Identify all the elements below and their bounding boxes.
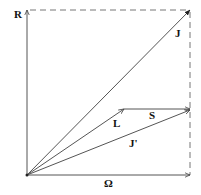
label-S: S [149,109,155,121]
label-Omega: Ω [104,177,113,189]
vector-diagram: R J L S J' Ω [0,0,201,195]
label-R: R [14,8,23,20]
label-J: J [175,27,181,39]
label-L: L [113,117,120,129]
label-J-prime: J' [129,137,138,149]
origin-point [26,174,29,177]
vector-J [27,10,190,175]
